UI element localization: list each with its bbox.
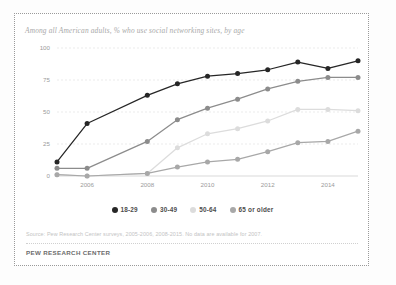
data-point[interactable] [145,139,150,144]
line-chart-svg: 025507510020062008201020122014 [15,40,370,198]
series-line [57,77,358,168]
data-point[interactable] [235,126,240,131]
y-tick-label: 100 [40,44,51,51]
data-point[interactable] [356,108,361,113]
data-point[interactable] [325,139,330,144]
data-point[interactable] [235,97,240,102]
data-point[interactable] [356,58,361,63]
data-point[interactable] [295,79,300,84]
data-point[interactable] [175,81,180,86]
data-point[interactable] [205,159,210,164]
data-point[interactable] [265,86,270,91]
data-point[interactable] [205,74,210,79]
data-point[interactable] [235,157,240,162]
legend-item-65-or-older[interactable]: 65 or older [230,206,274,213]
data-point[interactable] [175,117,180,122]
legend-marker-icon [190,207,196,213]
data-point[interactable] [295,140,300,145]
x-tick-label: 2006 [80,181,94,188]
legend-item-label: 50-64 [199,206,216,213]
brand-label: PEW RESEARCH CENTER [26,249,110,256]
legend-item-label: 30-49 [160,206,177,213]
data-point[interactable] [55,159,60,164]
data-point[interactable] [85,166,90,171]
data-point[interactable] [55,166,60,171]
data-point[interactable] [295,107,300,112]
x-tick-label: 2010 [201,181,215,188]
x-tick-label: 2008 [140,181,154,188]
data-point[interactable] [55,172,60,177]
data-point[interactable] [356,75,361,80]
series-line [57,131,358,176]
y-tick-label: 0 [47,172,51,179]
data-point[interactable] [325,107,330,112]
chart-legend: 18-2930-4950-6465 or older [15,206,370,213]
data-point[interactable] [235,71,240,76]
data-point[interactable] [175,165,180,170]
series-line [57,109,358,176]
chart-figure: Among all American adults, % who use soc… [0,0,396,285]
legend-item-30-49[interactable]: 30-49 [151,206,177,213]
data-point[interactable] [265,118,270,123]
legend-item-label: 18-29 [121,206,138,213]
legend-item-50-64[interactable]: 50-64 [190,206,216,213]
series-18-29 [55,58,361,164]
data-point[interactable] [205,131,210,136]
plot-area: 025507510020062008201020122014 [15,40,370,198]
data-point[interactable] [205,106,210,111]
data-point[interactable] [356,129,361,134]
data-point[interactable] [85,174,90,179]
data-point[interactable] [295,60,300,65]
legend-marker-icon [112,207,118,213]
data-point[interactable] [325,75,330,80]
chart-title: Among all American adults, % who use soc… [25,26,355,35]
legend-item-18-29[interactable]: 18-29 [112,206,138,213]
y-tick-label: 50 [43,108,50,115]
y-tick-label: 25 [43,140,50,147]
legend-marker-icon [151,207,157,213]
x-tick-label: 2012 [261,181,275,188]
data-point[interactable] [175,145,180,150]
data-point[interactable] [145,93,150,98]
y-tick-label: 75 [43,76,50,83]
x-tick-label: 2014 [321,181,335,188]
data-point[interactable] [265,67,270,72]
chart-card: Among all American adults, % who use soc… [14,13,369,266]
series-30-49 [55,75,361,171]
footer-divider [26,243,358,244]
legend-marker-icon [230,207,236,213]
data-point[interactable] [85,121,90,126]
data-point[interactable] [265,149,270,154]
data-point[interactable] [325,66,330,71]
legend-item-label: 65 or older [239,206,274,213]
data-point[interactable] [145,171,150,176]
source-note: Source: Pew Research Center surveys, 200… [26,231,361,237]
